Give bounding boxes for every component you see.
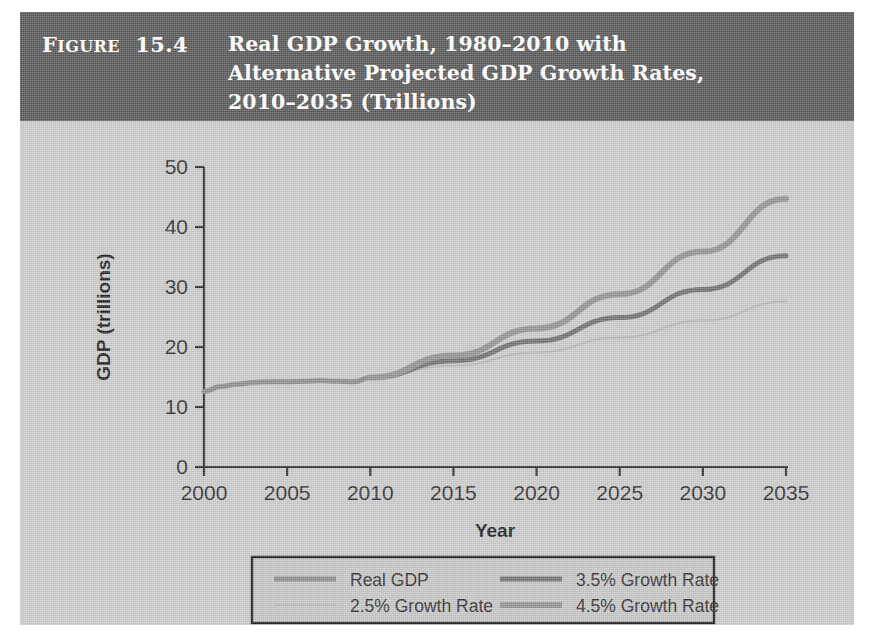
y-tick-label: 20	[165, 335, 188, 358]
y-tick-label: 50	[165, 155, 188, 178]
legend-label: Real GDP	[350, 570, 429, 590]
x-axis: 20002005201020152020202520302035	[181, 467, 810, 504]
y-tick-label: 40	[165, 215, 188, 238]
y-tick-label: 30	[165, 275, 188, 298]
y-axis-title: GDP (trillions)	[93, 253, 114, 380]
legend-label: 2.5% Growth Rate	[350, 596, 493, 616]
figure-title-line-3: 2010–2035 (Trillions)	[228, 88, 838, 117]
x-tick-label: 2025	[596, 481, 643, 504]
x-tick-label: 2005	[264, 481, 311, 504]
x-tick-label: 2010	[347, 481, 394, 504]
x-tick-label: 2035	[763, 481, 810, 504]
legend-label: 3.5% Growth Rate	[576, 570, 719, 590]
chart-plot-area: 01020304050 2000200520102015202020252030…	[20, 121, 854, 625]
y-tick-label: 0	[176, 455, 188, 478]
x-tick-label: 2020	[513, 481, 560, 504]
chart-legend: Real GDP3.5% Growth Rate2.5% Growth Rate…	[252, 557, 719, 623]
figure-label-caps: IGURE	[57, 37, 120, 56]
y-axis: 01020304050	[165, 155, 204, 478]
x-tick-label: 2000	[181, 481, 228, 504]
legend-label: 4.5% Growth Rate	[576, 596, 719, 616]
figure-title: Real GDP Growth, 1980–2010 with Alternat…	[228, 30, 838, 117]
x-axis-title: Year	[475, 520, 516, 541]
figure-label: FIGURE 15.4	[42, 32, 188, 57]
chart-svg: 01020304050 2000200520102015202020252030…	[20, 121, 854, 625]
figure-container: FIGURE 15.4 Real GDP Growth, 1980–2010 w…	[20, 12, 854, 625]
figure-label-prefix: F	[42, 32, 57, 57]
figure-title-line-2: Alternative Projected GDP Growth Rates,	[228, 59, 838, 88]
y-tick-label: 10	[165, 395, 188, 418]
series-line	[204, 378, 370, 392]
figure-title-line-1: Real GDP Growth, 1980–2010 with	[228, 30, 838, 59]
figure-number: 15.4	[135, 32, 188, 57]
x-tick-label: 2030	[679, 481, 726, 504]
figure-header-banner: FIGURE 15.4 Real GDP Growth, 1980–2010 w…	[20, 12, 854, 121]
x-tick-label: 2015	[430, 481, 477, 504]
chart-series-group	[204, 199, 786, 392]
